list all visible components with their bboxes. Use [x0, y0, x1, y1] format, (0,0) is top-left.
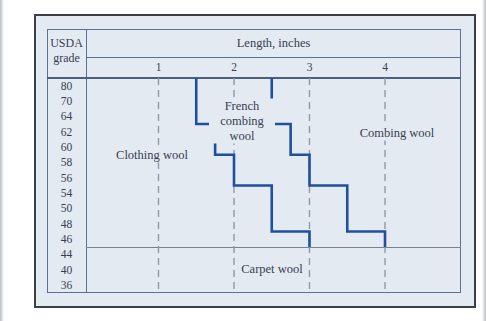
region-label-clothing-wool: Clothing wool: [114, 148, 190, 163]
wool-class-boundary-line: [272, 78, 385, 247]
region-label-carpet-wool: Carpet wool: [239, 262, 304, 277]
page-edge-right: [482, 0, 486, 321]
page-edge-left: [0, 0, 4, 321]
wool-grade-chart-page: USDA grade Length, inches 1234 807064626…: [0, 0, 486, 321]
region-label-french-combing-wool: French combing wool: [209, 99, 275, 144]
region-label-combing-wool: Combing wool: [358, 126, 437, 141]
